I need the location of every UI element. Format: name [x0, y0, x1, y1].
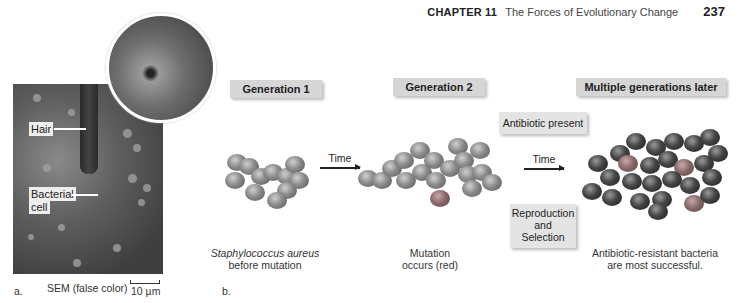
generation-2-caption-line1: Mutation	[390, 247, 470, 259]
multiple-generations-caption: Antibiotic-resistant bacteria are most s…	[585, 247, 725, 271]
scale-bar-label: 10 µm	[131, 285, 160, 297]
generation-2-caption: Mutation occurs (red)	[390, 247, 470, 271]
bacterial-cell-leader-line	[72, 194, 98, 196]
multiple-generations-title: Multiple generations later	[576, 78, 726, 96]
generation-1-bacteria-cluster	[225, 150, 315, 210]
species-name: Staphylococcus aureus	[205, 247, 325, 259]
resistant-bacteria-cluster	[580, 125, 730, 220]
page-number: 237	[703, 4, 725, 19]
bacterial-cell-callout-line2: cell	[29, 200, 50, 214]
process-line2: and	[510, 219, 576, 231]
panel-b-label: b.	[222, 285, 231, 297]
arrow-right-icon	[524, 168, 564, 170]
chapter-label: CHAPTER 11	[427, 6, 497, 18]
hair-leader-line	[54, 128, 86, 130]
chapter-title: The Forces of Evolutionary Change	[505, 6, 678, 18]
time-label-2: Time	[524, 153, 564, 165]
mutated-bacterium	[430, 190, 450, 207]
time-arrow-2: Time	[524, 153, 564, 170]
skin-closeup-inset	[106, 13, 216, 123]
sem-caption: SEM (false color)	[47, 282, 128, 294]
multi-gen-caption-line2: are most successful.	[585, 259, 725, 271]
generation-2-bacteria-cluster	[358, 138, 508, 213]
generation-2-caption-line2: occurs (red)	[390, 259, 470, 271]
process-line3: Selection	[510, 231, 576, 243]
generation-2-title: Generation 2	[393, 78, 485, 96]
scale-bar	[130, 280, 160, 284]
time-label-1: Time	[320, 152, 360, 164]
running-header: CHAPTER 11 The Forces of Evolutionary Ch…	[0, 4, 725, 19]
antibiotic-present-box: Antibiotic present	[499, 112, 587, 134]
arrow-right-icon	[320, 167, 360, 169]
generation-1-caption: Staphylococcus aureus before mutation	[205, 247, 325, 271]
reproduction-selection-box: Reproduction and Selection	[510, 204, 576, 248]
process-line1: Reproduction	[510, 207, 576, 219]
hair-callout: Hair	[29, 122, 53, 136]
generation-1-caption-line2: before mutation	[205, 259, 325, 271]
multi-gen-caption-line1: Antibiotic-resistant bacteria	[585, 247, 725, 259]
bacterial-cell-callout-line1: Bacterial	[29, 187, 76, 201]
time-arrow-1: Time	[320, 152, 360, 169]
panel-a-label: a.	[14, 285, 23, 297]
generation-1-title: Generation 1	[230, 80, 322, 98]
